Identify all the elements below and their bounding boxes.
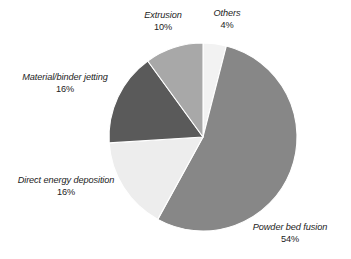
slice-label-direct-energy-deposition: Direct energy deposition 16% <box>2 175 130 198</box>
pie-chart-svg <box>0 0 351 259</box>
slice-label-material-binder-jetting-value: 16% <box>4 84 126 96</box>
slice-label-powder-bed-fusion: Powder bed fusion 54% <box>232 222 348 245</box>
chart-plot-area: Extrusion 10% Others 4% Material/binder … <box>0 0 351 259</box>
slice-label-others-value: 4% <box>196 20 258 32</box>
slice-label-material-binder-jetting-name: Material/binder jetting <box>4 72 126 84</box>
slice-label-extrusion-name: Extrusion <box>120 10 206 22</box>
slice-label-direct-energy-deposition-name: Direct energy deposition <box>2 175 130 187</box>
pie-slice-group <box>109 43 297 231</box>
slice-label-extrusion: Extrusion 10% <box>120 10 206 33</box>
slice-label-material-binder-jetting: Material/binder jetting 16% <box>4 72 126 95</box>
slice-label-powder-bed-fusion-name: Powder bed fusion <box>232 222 348 234</box>
slice-label-extrusion-value: 10% <box>120 22 206 34</box>
slice-label-direct-energy-deposition-value: 16% <box>2 187 130 199</box>
pie-chart-figure: Extrusion 10% Others 4% Material/binder … <box>0 0 351 259</box>
slice-label-others: Others 4% <box>196 8 258 31</box>
slice-label-others-name: Others <box>196 8 258 20</box>
slice-label-powder-bed-fusion-value: 54% <box>232 234 348 246</box>
